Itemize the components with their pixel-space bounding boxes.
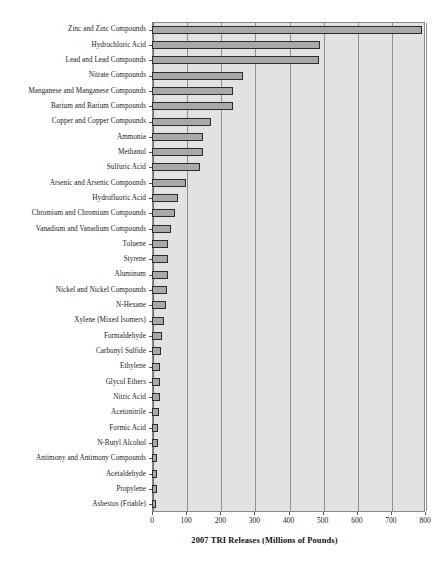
x-axis-tick-label: 400 xyxy=(283,516,294,525)
y-axis-tick xyxy=(149,290,152,291)
x-axis-tick xyxy=(391,512,392,515)
y-axis-tick-label: Acetonitrile xyxy=(111,408,146,416)
y-axis-tick xyxy=(149,45,152,46)
y-axis-tick xyxy=(149,167,152,168)
x-axis-tick xyxy=(254,512,255,515)
x-axis-tick xyxy=(289,512,290,515)
y-axis-tick-label: Sulfuric Acid xyxy=(107,163,146,171)
x-axis-tick xyxy=(152,512,153,515)
x-axis-tick xyxy=(186,512,187,515)
y-axis-tick xyxy=(149,244,152,245)
y-axis-tick-label: Ammonia xyxy=(117,133,146,141)
y-axis-tick-label: Barium and Barium Compounds xyxy=(51,102,146,110)
bar-row xyxy=(152,378,425,386)
bar-row xyxy=(152,72,425,80)
y-axis-tick xyxy=(149,106,152,107)
bar-chart: Zinc and Zinc CompoundsHydrochloric Acid… xyxy=(0,0,447,570)
bars-layer xyxy=(152,22,425,512)
y-axis-tick-label: Styrene xyxy=(124,255,146,263)
x-axis-tick-label: 800 xyxy=(419,516,430,525)
y-axis-tick-label: Nitrate Compounds xyxy=(89,71,146,79)
x-axis-tick-label: 700 xyxy=(385,516,396,525)
bar xyxy=(152,301,166,309)
bar-row xyxy=(152,56,425,64)
x-axis-tick xyxy=(357,512,358,515)
bar-row xyxy=(152,41,425,49)
bar xyxy=(152,209,175,217)
bar-row xyxy=(152,209,425,217)
bar-row xyxy=(152,194,425,202)
bar-row xyxy=(152,148,425,156)
bar xyxy=(152,118,211,126)
y-axis-tick xyxy=(149,321,152,322)
bar xyxy=(152,271,168,279)
bar xyxy=(152,26,422,34)
y-axis-tick xyxy=(149,122,152,123)
y-axis-tick xyxy=(149,458,152,459)
y-axis-tick xyxy=(149,183,152,184)
bar-row xyxy=(152,118,425,126)
bar-row xyxy=(152,102,425,110)
bar-row xyxy=(152,332,425,340)
y-axis-tick xyxy=(149,336,152,337)
y-axis-tick xyxy=(149,412,152,413)
x-axis-tick-label: 100 xyxy=(181,516,192,525)
bar xyxy=(152,454,157,462)
y-axis-tick-label: Hydrofluoric Acid xyxy=(92,194,146,202)
y-axis-tick-label: Asbestos (Friable) xyxy=(92,500,146,508)
bar-row xyxy=(152,240,425,248)
y-axis-tick-label: Zinc and Zinc Compounds xyxy=(68,25,146,33)
bar xyxy=(152,194,178,202)
bar-row xyxy=(152,26,425,34)
bar xyxy=(152,332,162,340)
y-axis-tick-label: Ethylene xyxy=(120,362,146,370)
bar xyxy=(152,163,200,171)
y-axis-tick-label: Vanadium and Vanadium Compounds xyxy=(36,225,146,233)
bar xyxy=(152,378,160,386)
x-axis-title: 2007 TRI Releases (Millions of Pounds) xyxy=(0,536,447,545)
y-axis-tick xyxy=(149,305,152,306)
y-axis-tick-label: Toluene xyxy=(123,240,146,248)
bar xyxy=(152,240,168,248)
bar xyxy=(152,133,203,141)
y-axis-tick-label: N-Hexane xyxy=(116,301,146,309)
gridline-800 xyxy=(426,23,427,511)
y-axis-labels: Zinc and Zinc CompoundsHydrochloric Acid… xyxy=(0,22,152,512)
y-axis-tick-label: Formaldehyde xyxy=(104,332,146,340)
x-axis-tick-label: 500 xyxy=(317,516,328,525)
bar-row xyxy=(152,271,425,279)
bar xyxy=(152,56,319,64)
bar xyxy=(152,347,161,355)
y-axis-tick xyxy=(149,367,152,368)
bar-row xyxy=(152,500,425,508)
y-axis-tick-label: Xylene (Mixed Isomers) xyxy=(74,316,146,324)
y-axis-tick xyxy=(149,137,152,138)
bar xyxy=(152,286,167,294)
bar-row xyxy=(152,363,425,371)
bar-row xyxy=(152,301,425,309)
x-axis-tick-label: 0 xyxy=(150,516,154,525)
bar xyxy=(152,470,157,478)
y-axis-tick xyxy=(149,259,152,260)
y-axis-tick xyxy=(149,397,152,398)
y-axis-tick-label: Glycol Ethers xyxy=(106,378,146,386)
bar-row xyxy=(152,393,425,401)
y-axis-tick-label: Aluminum xyxy=(114,270,146,278)
x-axis-tick xyxy=(323,512,324,515)
bar-row xyxy=(152,133,425,141)
y-axis-tick-label: Carbonyl Sulfide xyxy=(96,347,146,355)
bar xyxy=(152,102,233,110)
bar xyxy=(152,439,158,447)
bar xyxy=(152,87,233,95)
bar-row xyxy=(152,439,425,447)
y-axis-tick xyxy=(149,76,152,77)
bar xyxy=(152,179,186,187)
bar xyxy=(152,255,168,263)
bar-row xyxy=(152,470,425,478)
bar-row xyxy=(152,179,425,187)
y-axis-tick xyxy=(149,504,152,505)
bar-row xyxy=(152,286,425,294)
y-axis-tick xyxy=(149,443,152,444)
bar-row xyxy=(152,225,425,233)
bar xyxy=(152,225,171,233)
